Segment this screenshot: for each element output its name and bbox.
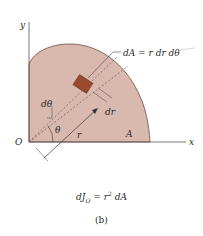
origin-label: O bbox=[15, 138, 22, 147]
dr-label: dr bbox=[105, 108, 115, 117]
formula-eq: = r bbox=[90, 192, 108, 202]
panel-label: (b) bbox=[0, 216, 203, 225]
dtheta-label: dθ bbox=[41, 100, 52, 109]
formula-rhs: dA bbox=[112, 192, 127, 202]
theta-label: θ bbox=[55, 126, 60, 135]
area-label: A bbox=[126, 130, 133, 139]
dA-tail bbox=[180, 48, 195, 50]
x-axis-label: x bbox=[189, 138, 194, 147]
polar-moment-diagram: y x O dA = r dr dθ dθ dr θ r A dJO = r2 … bbox=[0, 0, 203, 236]
r-ext bbox=[36, 148, 48, 161]
y-axis-label: y bbox=[20, 21, 25, 30]
polar-moment-formula: dJO = r2 dA bbox=[0, 191, 203, 204]
area-region bbox=[29, 44, 150, 142]
dA-equation-label: dA = r dr dθ bbox=[123, 49, 180, 58]
r-label: r bbox=[77, 131, 81, 140]
